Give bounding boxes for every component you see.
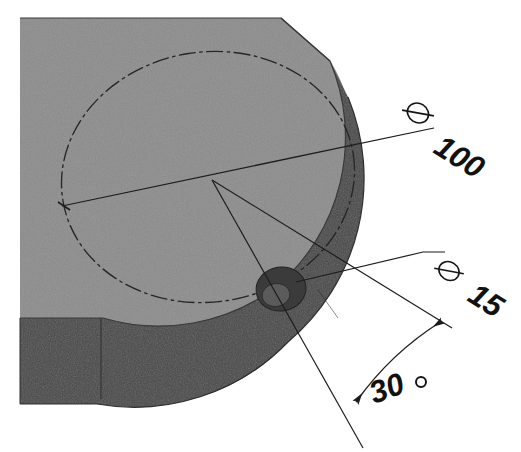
dia-15-symbol-group: [432, 256, 465, 286]
dimension-label-angle-30: 30: [364, 366, 408, 411]
drawing-svg: 100 15 30: [0, 0, 521, 452]
solid-body: [20, 18, 364, 407]
dia-100-symbol-group: [400, 97, 436, 129]
dimension-label-diameter-100: 100: [428, 128, 490, 185]
dimension-label-diameter-15: 15: [462, 276, 510, 324]
degree-symbol-icon: [416, 377, 426, 387]
technical-drawing-canvas: 100 15 30: [0, 0, 521, 452]
